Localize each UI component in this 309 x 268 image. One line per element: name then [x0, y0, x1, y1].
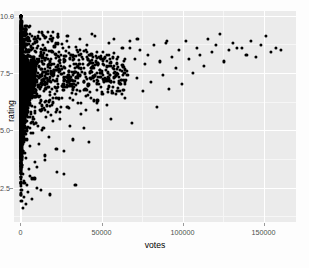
data-point	[60, 42, 63, 45]
data-point	[279, 48, 282, 51]
data-point	[45, 35, 48, 38]
x-tick-mark	[102, 223, 103, 226]
data-point	[105, 66, 108, 69]
data-point	[74, 92, 77, 95]
data-point	[68, 64, 71, 67]
data-point	[49, 193, 52, 196]
data-point	[36, 125, 39, 128]
data-point	[58, 110, 61, 113]
data-point	[116, 90, 119, 93]
y-axis-title: rating	[6, 81, 16, 141]
data-point	[82, 49, 85, 52]
data-point	[55, 170, 58, 173]
data-point	[144, 62, 147, 65]
data-point	[84, 108, 87, 111]
data-point	[35, 40, 38, 43]
data-point	[133, 58, 136, 61]
data-point	[155, 106, 158, 109]
data-point	[236, 46, 239, 49]
data-point	[44, 159, 47, 162]
data-point	[95, 50, 98, 53]
y-tick-label: 2.5	[0, 183, 8, 192]
data-point	[65, 39, 68, 42]
data-point	[108, 42, 111, 45]
data-point	[46, 30, 49, 33]
data-point	[138, 48, 141, 51]
data-point	[51, 31, 54, 34]
data-point	[78, 59, 81, 62]
data-point	[81, 63, 84, 66]
data-point	[107, 54, 110, 57]
x-axis-title: votes	[14, 240, 296, 250]
data-point	[50, 114, 53, 117]
data-point	[87, 140, 90, 143]
data-point	[121, 46, 124, 49]
data-point	[51, 101, 54, 104]
data-point	[184, 39, 187, 42]
data-point	[166, 39, 169, 42]
data-point	[55, 147, 58, 150]
data-point	[69, 124, 72, 127]
plot-panel	[14, 11, 296, 222]
data-point	[106, 103, 109, 106]
data-point	[131, 122, 134, 125]
data-point	[112, 37, 115, 40]
data-point	[78, 89, 81, 92]
data-point	[106, 91, 109, 94]
data-point	[52, 120, 55, 123]
data-point	[60, 105, 63, 108]
data-point	[113, 51, 116, 54]
data-point	[126, 74, 129, 77]
data-point	[149, 81, 152, 84]
data-point	[42, 126, 45, 129]
data-point	[123, 83, 126, 86]
x-tick-label: 100000	[171, 228, 195, 237]
data-point	[53, 45, 56, 48]
data-point	[223, 60, 226, 63]
data-point	[100, 85, 103, 88]
data-point	[119, 83, 122, 86]
data-point	[64, 66, 67, 69]
data-point	[240, 46, 243, 49]
data-point	[48, 136, 51, 139]
data-point	[70, 92, 73, 95]
data-point	[39, 188, 42, 191]
data-point	[122, 88, 125, 91]
data-point	[195, 46, 198, 49]
x-tick-mark	[264, 223, 265, 226]
data-point	[120, 92, 123, 95]
data-point	[63, 149, 66, 152]
data-point	[102, 51, 105, 54]
data-point	[74, 184, 77, 187]
data-point	[71, 88, 74, 91]
data-point	[72, 98, 75, 101]
data-point	[82, 126, 85, 129]
data-point	[86, 44, 89, 47]
data-point	[152, 44, 155, 47]
data-point	[158, 60, 161, 63]
data-point	[88, 83, 91, 86]
data-point	[250, 39, 253, 42]
data-point	[264, 35, 267, 38]
data-point	[35, 186, 38, 189]
data-point	[188, 58, 191, 61]
data-point	[141, 90, 144, 93]
data-point	[231, 42, 234, 45]
data-point	[161, 74, 164, 77]
data-point	[53, 92, 56, 95]
data-point	[219, 32, 222, 35]
data-point	[80, 113, 83, 116]
y-tick-label: 7.5	[0, 68, 8, 77]
scatter-plot-figure: 050000100000150000 2.55.07.510.0 votes r…	[0, 0, 309, 268]
data-point	[136, 37, 139, 40]
data-point	[146, 53, 149, 56]
data-point	[78, 37, 81, 40]
data-point	[128, 46, 131, 49]
data-point	[50, 58, 53, 61]
data-point	[83, 66, 86, 69]
data-point	[123, 59, 126, 62]
data-point	[58, 117, 61, 120]
data-point	[67, 107, 70, 110]
data-point	[51, 87, 54, 90]
data-point	[207, 37, 210, 40]
